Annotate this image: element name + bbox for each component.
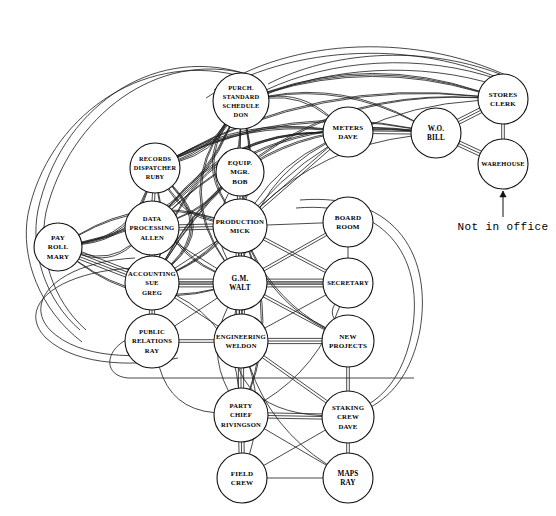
edge-meters-production bbox=[261, 149, 330, 209]
node-label-warehouse: WAREHOUSE bbox=[481, 160, 524, 167]
node-label-purch: SCHEDULE bbox=[223, 102, 260, 109]
edge-partychief-staking bbox=[268, 416, 322, 417]
node-warehouse[interactable]: WAREHOUSE bbox=[478, 139, 528, 189]
curved-edge-pubrel-partychief bbox=[159, 367, 214, 413]
node-label-equip: MGR. bbox=[230, 168, 250, 176]
node-accounting[interactable]: ACCOUNTINGSUEGREG bbox=[125, 256, 179, 310]
node-label-dataproc: ALLEN bbox=[140, 234, 164, 241]
node-label-stores: CLERK bbox=[490, 100, 516, 108]
node-label-wo: BILL bbox=[427, 134, 445, 142]
edge-staking-fieldcrew bbox=[264, 430, 326, 466]
not-in-office-label: Not in office bbox=[457, 221, 548, 233]
node-gm[interactable]: G.M.WALT bbox=[213, 256, 267, 310]
node-production[interactable]: PRODUCTIONMICK bbox=[213, 199, 267, 253]
node-label-accounting: GREG bbox=[142, 289, 162, 296]
node-label-dataproc: DATA bbox=[143, 215, 162, 222]
node-secretary[interactable]: SECRETARY bbox=[323, 258, 373, 308]
node-label-maps: MAPS bbox=[337, 470, 358, 478]
node-partychief[interactable]: PARTYCHIEFRIVINGSON bbox=[214, 388, 268, 442]
node-label-equip: EQUIP. bbox=[228, 159, 253, 167]
node-payroll[interactable]: PAYROLLMARY bbox=[34, 223, 82, 271]
node-label-boardroom: BOARD bbox=[335, 214, 361, 222]
node-label-wo: W.O. bbox=[428, 125, 445, 133]
node-label-gm: G.M. bbox=[232, 275, 249, 283]
node-purch[interactable]: PURCH.STANDARDSCHEDULEDON bbox=[213, 73, 269, 129]
edge-partychief-staking bbox=[268, 413, 322, 414]
node-circle-meters[interactable] bbox=[323, 107, 373, 157]
node-stores[interactable]: STORESCLERK bbox=[478, 74, 528, 124]
curved-edge-purch-stores bbox=[268, 76, 479, 92]
node-circle-maps[interactable] bbox=[323, 453, 373, 503]
node-label-engineering: ENGINEERING bbox=[216, 333, 266, 340]
node-boardroom[interactable]: BOARDROOM bbox=[323, 197, 373, 247]
node-label-equip: BOB bbox=[232, 178, 248, 186]
annotation-layer: Not in office bbox=[457, 191, 548, 233]
node-label-payroll: ROLL bbox=[48, 243, 69, 251]
node-circle-fieldcrew[interactable] bbox=[217, 453, 267, 503]
node-circle-gm[interactable] bbox=[213, 256, 267, 310]
edge-accounting-payroll bbox=[82, 252, 128, 270]
node-label-purch: DON bbox=[234, 111, 249, 118]
node-dataproc[interactable]: DATAPROCESSINGALLEN bbox=[125, 201, 179, 255]
not-in-office-arrow-icon bbox=[500, 191, 506, 197]
node-label-production: MICK bbox=[230, 227, 251, 234]
edge-gm-newproj bbox=[264, 295, 325, 328]
node-label-accounting: SUE bbox=[145, 279, 159, 286]
node-label-purch: PURCH. bbox=[228, 84, 254, 91]
curved-edge-secretary-newproj bbox=[332, 304, 335, 319]
node-label-accounting: ACCOUNTING bbox=[128, 270, 176, 277]
edge-production-secretary bbox=[263, 240, 325, 273]
node-label-records: RUBY bbox=[146, 173, 165, 180]
edge-wo-warehouse bbox=[460, 141, 482, 151]
node-label-engineering: WELDON bbox=[225, 342, 256, 349]
edge-records-dataproc bbox=[152, 193, 153, 201]
node-meters[interactable]: METERSDAVE bbox=[323, 107, 373, 157]
node-label-partychief: RIVINGSON bbox=[221, 421, 261, 428]
node-label-newproj: PROJECTS bbox=[329, 342, 367, 350]
node-label-purch: STANDARD bbox=[223, 93, 260, 100]
node-label-pubrel: PUBLIC bbox=[139, 328, 165, 335]
organization-network-svg: PURCH.STANDARDSCHEDULEDONRECORDSDISPATCH… bbox=[0, 0, 556, 516]
node-label-secretary: SECRETARY bbox=[327, 279, 369, 286]
node-staking[interactable]: STAKINGCREWDAVE bbox=[322, 391, 374, 443]
edge-gm-newproj bbox=[263, 297, 324, 330]
edge-stores-wo bbox=[460, 113, 482, 124]
node-label-records: RECORDS bbox=[139, 155, 171, 162]
node-label-stores: STORES bbox=[489, 91, 518, 99]
node-label-fieldcrew: FIELD bbox=[231, 470, 253, 478]
node-circle-production[interactable] bbox=[213, 199, 267, 253]
edge-gm-boardroom bbox=[263, 233, 326, 268]
node-circle-boardroom[interactable] bbox=[323, 197, 373, 247]
node-circle-stores[interactable] bbox=[478, 74, 528, 124]
node-label-payroll: PAY bbox=[51, 234, 65, 242]
edge-stores-wo bbox=[457, 108, 479, 119]
node-wo[interactable]: W.O.BILL bbox=[411, 108, 461, 158]
node-maps[interactable]: MAPSRAY bbox=[323, 453, 373, 503]
node-engineering[interactable]: ENGINEERINGWELDON bbox=[214, 314, 268, 368]
node-label-gm: WALT bbox=[229, 284, 250, 292]
edge-dataproc-production bbox=[179, 224, 213, 225]
edge-wo-warehouse bbox=[459, 144, 481, 154]
node-label-fieldcrew: CREW bbox=[231, 479, 254, 487]
network-diagram-canvas: PURCH.STANDARDSCHEDULEDONRECORDSDISPATCH… bbox=[0, 0, 556, 516]
node-equip[interactable]: EQUIP.MGR.BOB bbox=[216, 148, 264, 196]
node-label-partychief: CHIEF bbox=[230, 411, 252, 418]
node-label-payroll: MARY bbox=[47, 253, 69, 261]
node-circle-wo[interactable] bbox=[411, 108, 461, 158]
node-circle-newproj[interactable] bbox=[322, 315, 374, 367]
node-newproj[interactable]: NEWPROJECTS bbox=[322, 315, 374, 367]
node-pubrel[interactable]: PUBLICRELATIONSRAY bbox=[125, 314, 179, 368]
edge-meters-production bbox=[260, 147, 329, 207]
node-label-meters: DAVE bbox=[338, 133, 358, 141]
node-label-pubrel: RAY bbox=[145, 347, 159, 354]
edge-production-boardroom bbox=[267, 223, 323, 225]
node-fieldcrew[interactable]: FIELDCREW bbox=[217, 453, 267, 503]
curved-edge-purch-stores bbox=[268, 75, 480, 92]
edge-partychief-staking bbox=[268, 418, 322, 419]
node-label-pubrel: RELATIONS bbox=[132, 337, 172, 344]
node-label-meters: METERS bbox=[333, 124, 364, 132]
node-label-staking: CREW bbox=[337, 413, 359, 420]
node-label-records: DISPATCHER bbox=[134, 164, 177, 171]
node-label-boardroom: ROOM bbox=[336, 223, 360, 231]
node-records[interactable]: RECORDSDISPATCHERRUBY bbox=[130, 143, 180, 193]
